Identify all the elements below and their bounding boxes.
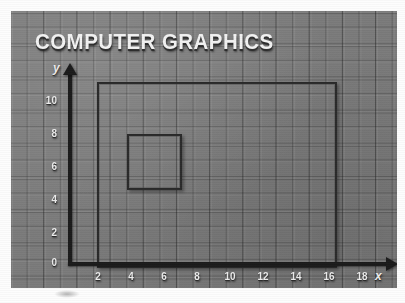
x-axis-label: x — [375, 269, 382, 283]
y-axis-line — [68, 73, 72, 266]
x-tick-label: 4 — [121, 270, 141, 282]
x-tick-label: 10 — [220, 270, 240, 282]
y-tick-label: 0 — [37, 256, 57, 268]
y-tick-label: 10 — [37, 94, 57, 106]
y-tick-label: 6 — [37, 160, 57, 172]
y-tick-label: 2 — [37, 226, 57, 238]
x-tick-label: 12 — [253, 270, 273, 282]
x-tick-label: 6 — [154, 270, 174, 282]
page-title: COMPUTER GRAPHICS — [35, 29, 274, 55]
x-tick-label: 16 — [319, 270, 339, 282]
x-tick-label: 18 — [352, 270, 372, 282]
y-axis-label: y — [53, 61, 60, 75]
x-axis-arrow-icon — [386, 257, 397, 271]
x-tick-label: 8 — [187, 270, 207, 282]
x-tick-label: 14 — [286, 270, 306, 282]
x-tick-label: 2 — [88, 270, 108, 282]
y-tick-label: 8 — [37, 127, 57, 139]
graph-paper-canvas: COMPUTER GRAPHICS y x 10 8 6 4 2 0 2 4 6… — [11, 11, 397, 288]
y-axis-arrow-icon — [63, 63, 77, 75]
x-axis-line — [68, 262, 391, 266]
inner-square-shape — [127, 134, 182, 190]
screenshot-root: COMPUTER GRAPHICS y x 10 8 6 4 2 0 2 4 6… — [0, 0, 405, 303]
y-tick-label: 4 — [37, 193, 57, 205]
pencil-smudge — [54, 290, 80, 298]
